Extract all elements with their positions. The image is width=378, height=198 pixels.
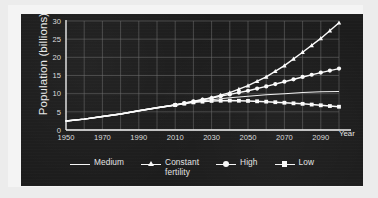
y-gridlines: [66, 21, 339, 130]
svg-text:2090: 2090: [312, 133, 329, 142]
data-series-layer: [66, 20, 341, 121]
svg-text:2050: 2050: [240, 133, 257, 142]
x-tick-labels: 19501970199020102030205020702090: [58, 133, 330, 142]
series-low: [66, 99, 341, 121]
svg-text:1990: 1990: [130, 133, 147, 142]
legend-key-circle-icon: [216, 160, 236, 169]
x-axis-title: Year: [339, 129, 355, 138]
legend-item-constant-fertility[interactable]: Constant fertility: [141, 158, 199, 177]
svg-text:25: 25: [53, 35, 61, 44]
svg-text:2070: 2070: [276, 133, 293, 142]
legend-item-low[interactable]: Low: [275, 158, 315, 169]
svg-text:5: 5: [57, 108, 61, 117]
series-constant-fertility: [66, 20, 341, 121]
legend-key-none-icon: [70, 160, 90, 169]
legend-label: Medium: [94, 158, 124, 168]
legend-label: High: [240, 158, 257, 168]
chart-legend: MediumConstant fertilityHighLow: [21, 155, 363, 186]
legend-item-high[interactable]: High: [216, 158, 257, 169]
legend-label: Constant fertility: [165, 158, 199, 177]
svg-text:2010: 2010: [167, 133, 184, 142]
svg-text:2030: 2030: [203, 133, 220, 142]
svg-text:10: 10: [53, 89, 61, 98]
legend-key-triangle-icon: [141, 160, 161, 169]
svg-text:20: 20: [53, 53, 61, 62]
y-tick-labels: 051015202530: [53, 17, 61, 135]
legend-key-square-icon: [275, 160, 295, 169]
svg-text:1970: 1970: [94, 133, 111, 142]
legend-item-medium[interactable]: Medium: [70, 158, 124, 169]
legend-label: Low: [299, 158, 315, 168]
svg-text:30: 30: [53, 17, 61, 26]
svg-text:15: 15: [53, 71, 61, 80]
figure-container: Population (billions) 051015202530 19501…: [0, 0, 378, 198]
svg-text:1950: 1950: [58, 133, 75, 142]
